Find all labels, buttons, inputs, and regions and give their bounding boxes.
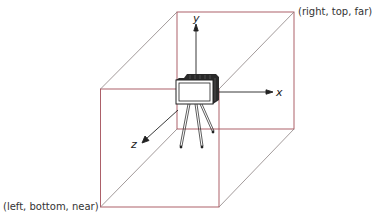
camera-icon bbox=[176, 74, 219, 104]
far-corner-label: (right, top, far) bbox=[298, 6, 372, 17]
x-axis-label: x bbox=[275, 86, 283, 99]
connecting-edges bbox=[101, 12, 295, 207]
y-axis-label: y bbox=[192, 12, 200, 25]
viewing-volume-diagram: y x z (right, top, far) (left, bottom, n… bbox=[0, 0, 376, 222]
near-corner-label: (left, bottom, near) bbox=[3, 201, 99, 212]
z-axis-label: z bbox=[130, 138, 137, 151]
tripod-icon bbox=[180, 104, 214, 146]
